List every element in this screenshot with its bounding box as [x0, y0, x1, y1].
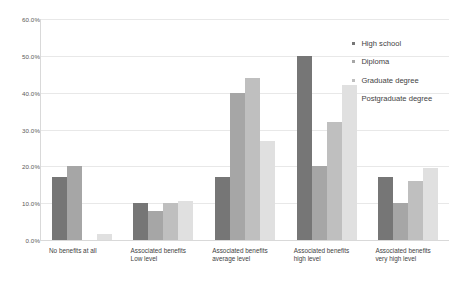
y-axis-tick-label: 30.0%: [4, 126, 40, 133]
legend-swatch-icon: [352, 79, 355, 82]
legend-label: Graduate degree: [361, 76, 418, 85]
bar-0[interactable]: [52, 177, 67, 240]
bar-2[interactable]: [163, 203, 178, 240]
bar-2[interactable]: [327, 122, 342, 240]
bar-1[interactable]: [148, 211, 163, 240]
legend-item[interactable]: Graduate degree: [352, 71, 460, 90]
bar-chart: 60.0%50.0%40.0%30.0%20.0%10.0%0.0% No be…: [0, 0, 461, 281]
y-axis-tick-label: 50.0%: [4, 52, 40, 59]
legend-swatch-icon: [352, 60, 355, 63]
legend-item[interactable]: Diploma: [352, 53, 460, 72]
bar-1[interactable]: [393, 203, 408, 240]
legend: High schoolDiplomaGraduate degreePostgra…: [352, 34, 460, 108]
y-axis: 60.0%50.0%40.0%30.0%20.0%10.0%0.0%: [0, 0, 40, 281]
legend-item[interactable]: Postgraduate degree: [352, 90, 460, 109]
y-axis-tick-label: 40.0%: [4, 89, 40, 96]
bar-2[interactable]: [408, 181, 423, 240]
y-axis-tick-label: 60.0%: [4, 16, 40, 23]
bar-3[interactable]: [97, 234, 112, 240]
bar-1[interactable]: [67, 166, 82, 240]
bar-1[interactable]: [312, 166, 327, 240]
bar-group: [204, 19, 286, 240]
axis-baseline: [40, 240, 449, 241]
legend-label: Diploma: [361, 57, 389, 66]
x-axis-category-label: Associated benefits high level: [286, 247, 368, 264]
bar-1[interactable]: [230, 93, 245, 240]
y-axis-tick-label: 10.0%: [4, 200, 40, 207]
bar-3[interactable]: [423, 168, 438, 240]
legend-swatch-icon: [352, 97, 355, 100]
bar-group: [41, 19, 123, 240]
x-axis-category-label: Associated benefits average level: [204, 247, 286, 264]
bar-group: [123, 19, 205, 240]
x-axis-category-label: Associated benefits very high level: [367, 247, 449, 264]
legend-swatch-icon: [352, 42, 355, 45]
bar-3[interactable]: [342, 85, 357, 240]
legend-label: Postgraduate degree: [361, 94, 432, 103]
bar-3[interactable]: [260, 141, 275, 240]
bar-2[interactable]: [245, 78, 260, 240]
x-axis-category-label: No benefits at all: [41, 247, 123, 264]
legend-item[interactable]: High school: [352, 34, 460, 53]
y-axis-tick-label: 20.0%: [4, 163, 40, 170]
bar-0[interactable]: [133, 203, 148, 240]
bar-0[interactable]: [378, 177, 393, 240]
bar-0[interactable]: [297, 56, 312, 240]
y-axis-tick-label: 0.0%: [4, 237, 40, 244]
bar-3[interactable]: [178, 201, 193, 240]
bar-0[interactable]: [215, 177, 230, 240]
x-axis-labels: No benefits at allAssociated benefits Lo…: [41, 247, 449, 264]
x-axis-category-label: Associated benefits Low level: [123, 247, 205, 264]
legend-label: High school: [361, 39, 401, 48]
